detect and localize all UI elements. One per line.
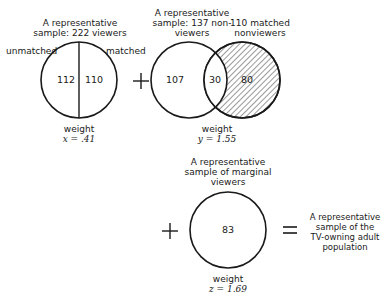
panel2-weight: weight y = 1.55 [192,124,242,144]
panel3-title: A representative sample of marginal view… [183,157,273,187]
nonviewers-only-value: 107 [164,74,186,85]
matched-value: 110 [84,74,104,85]
panel3-weight: weight z = 1.69 [203,274,253,294]
matched-only-value: 80 [237,74,257,85]
result-label: A representative sample of the TV-owning… [308,212,381,252]
panel2-title: A representative sample: 137 non- viewer… [152,8,232,38]
marginal-viewers-value: 83 [218,224,238,235]
matched-label: matched [106,46,146,56]
matched-nonviewers-title: 110 matched nonviewers [224,18,296,38]
panel1-weight: weight x = .41 [54,124,104,144]
overlap-value: 30 [205,74,225,85]
unmatched-value: 112 [56,74,76,85]
panel1-title: A representative sample: 222 viewers [32,18,128,38]
unmatched-label: unmatched [6,46,57,56]
